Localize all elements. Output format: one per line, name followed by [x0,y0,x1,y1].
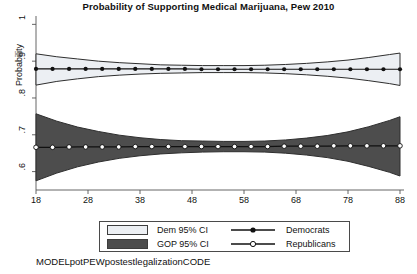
data-point [365,144,370,149]
data-point [67,67,71,71]
republicans-line-marker-icon [229,238,277,250]
data-point [398,144,403,149]
data-point [315,144,320,149]
data-point [381,144,386,149]
legend-label-republicans: Republicans [286,239,336,249]
data-point [232,144,237,149]
data-point [332,67,336,71]
data-point [298,144,303,149]
data-point [116,145,121,150]
data-point [133,144,138,149]
data-point [348,144,353,149]
legend-label-democrats: Democrats [286,225,330,235]
data-point [150,67,154,71]
data-point [315,67,319,71]
data-point [365,67,369,71]
data-point [199,144,204,149]
data-point [100,67,104,71]
chart-page: Probability of Supporting Medical Mariju… [0,0,417,274]
data-point [199,67,203,71]
data-point [216,144,221,149]
data-point [150,144,155,149]
legend-label-dem-ci: Dem 95% CI [157,225,225,235]
data-point [332,144,337,149]
chart-legend: Dem 95% CI Democrats GOP 95% CI Republic… [99,221,350,252]
data-point [117,67,121,71]
data-point [183,67,187,71]
data-point [232,67,236,71]
data-point [299,67,303,71]
data-point [398,67,402,71]
data-point [216,67,220,71]
data-point [84,67,88,71]
data-point [100,145,105,150]
data-point [266,67,270,71]
data-point [282,144,287,149]
gop-ci-swatch [107,239,148,249]
data-point [133,67,137,71]
legend-label-gop-ci: GOP 95% CI [157,239,225,249]
data-point [166,144,171,149]
data-point [282,67,286,71]
data-point [249,67,253,71]
data-point [183,144,188,149]
data-point [50,67,54,71]
democrats-line-marker-icon [229,224,277,236]
data-point [67,145,72,150]
data-point [249,144,254,149]
legend-row-dem: Dem 95% CI Democrats [100,223,349,237]
data-point [348,67,352,71]
data-point [34,145,39,150]
chart-caption: MODELpotPEWpostestlegalizationCODE [36,256,210,267]
data-point [34,67,38,71]
data-point [50,145,55,150]
dem-ci-swatch [107,225,148,235]
data-point [83,145,88,150]
data-point [265,144,270,149]
data-point [166,67,170,71]
data-point [381,67,385,71]
legend-row-gop: GOP 95% CI Republicans [100,237,349,251]
